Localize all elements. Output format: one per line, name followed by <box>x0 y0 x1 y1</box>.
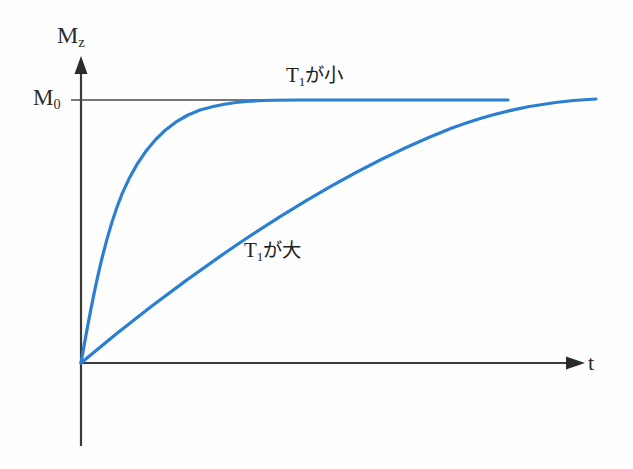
curve-t1-small <box>81 100 508 363</box>
t1-small-symbol: T <box>286 63 299 87</box>
y-axis-label-sub: z <box>78 34 85 50</box>
m0-label-sub: 0 <box>53 96 60 112</box>
t1-small-text: が小 <box>305 64 343 87</box>
curve-label-t1-large: T1が大 <box>244 240 301 261</box>
t1-large-symbol: T <box>244 238 257 262</box>
y-axis-arrowhead <box>75 56 88 74</box>
t1-large-subscript: 1 <box>257 249 264 264</box>
relaxation-curve-figure: Mz M0 t T1が小 T1が大 <box>0 0 633 469</box>
m0-level-label: M0 <box>33 86 61 109</box>
m0-label-main: M <box>33 85 53 110</box>
x-axis-label: t <box>588 352 594 374</box>
t1-small-subscript: 1 <box>299 74 306 89</box>
curve-label-t1-small: T1が小 <box>286 65 343 86</box>
t1-large-text: が大 <box>263 239 301 262</box>
y-axis-label: Mz <box>57 23 85 47</box>
y-axis-label-main: M <box>57 22 78 48</box>
x-axis-arrowhead <box>566 357 585 370</box>
